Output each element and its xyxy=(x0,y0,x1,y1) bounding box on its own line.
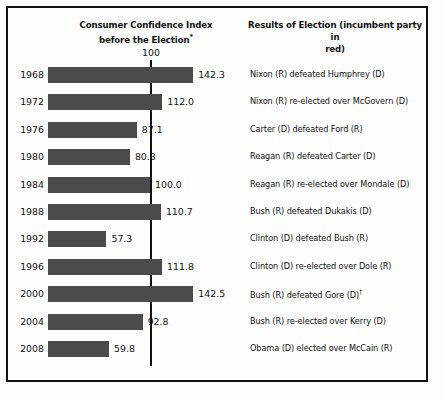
year-label: 1984 xyxy=(8,179,44,190)
election-result-text: Reagan (R) re-elected over Mondale (D) xyxy=(250,179,430,189)
value-bar xyxy=(48,94,162,110)
year-label: 1996 xyxy=(8,261,44,272)
chart-row: 1996111.8Clinton (D) re-elected over Dol… xyxy=(0,254,445,281)
bar-value-label: 100.0 xyxy=(155,179,182,190)
value-bar xyxy=(48,259,162,275)
value-bar xyxy=(48,67,193,83)
election-result-label: Reagan (R) re-elected over Mondale (D) xyxy=(250,179,409,189)
chart-rows: 1968142.3Nixon (R) defeated Humphrey (D)… xyxy=(0,0,445,399)
election-result-text: Reagan (R) defeated Carter (D) xyxy=(250,151,430,161)
value-bar xyxy=(48,204,161,220)
election-result-label: Bush (R) re-elected over Kerry (D) xyxy=(250,316,386,326)
value-bar xyxy=(48,149,130,165)
election-result-label: Reagan (R) defeated Carter (D) xyxy=(250,151,375,161)
year-label: 2008 xyxy=(8,343,44,354)
election-result-label: Clinton (D) defeated Bush (R) xyxy=(250,233,368,243)
chart-row: 200859.8Obama (D) elected over McCain (R… xyxy=(0,336,445,363)
value-bar xyxy=(48,314,143,330)
value-bar xyxy=(48,286,193,302)
election-result-text: Carter (D) defeated Ford (R) xyxy=(250,124,430,134)
election-result-label: Bush (R) defeated Dukakis (D) xyxy=(250,206,372,216)
chart-row: 1972112.0Nixon (R) re-elected over McGov… xyxy=(0,89,445,116)
election-result-text: Bush (R) defeated Dukakis (D) xyxy=(250,206,430,216)
chart-row: 1968142.3Nixon (R) defeated Humphrey (D) xyxy=(0,62,445,89)
chart-row: 2000142.5Bush (R) defeated Gore (D)† xyxy=(0,281,445,308)
year-label: 1988 xyxy=(8,206,44,217)
bar-value-label: 142.3 xyxy=(198,69,225,80)
value-bar xyxy=(48,341,109,357)
election-result-label: Clinton (D) re-elected over Dole (R) xyxy=(250,261,391,271)
footnote-dagger: † xyxy=(359,288,362,296)
chart-row: 198080.3Reagan (R) defeated Carter (D) xyxy=(0,144,445,171)
election-result-text: Nixon (R) defeated Humphrey (D) xyxy=(250,69,430,79)
election-result-text: Clinton (D) re-elected over Dole (R) xyxy=(250,261,430,271)
election-result-text: Bush (R) defeated Gore (D)† xyxy=(250,288,430,300)
election-result-text: Obama (D) elected over McCain (R) xyxy=(250,343,430,353)
year-label: 1992 xyxy=(8,233,44,244)
bar-value-label: 80.3 xyxy=(135,151,156,162)
election-result-label: Nixon (R) re-elected over McGovern (D) xyxy=(250,96,408,106)
bar-value-label: 142.5 xyxy=(198,288,225,299)
year-label: 1980 xyxy=(8,151,44,162)
bar-value-label: 92.8 xyxy=(148,316,169,327)
chart-row: 200492.8Bush (R) re-elected over Kerry (… xyxy=(0,309,445,336)
bar-value-label: 110.7 xyxy=(166,206,193,217)
election-result-label: Bush (R) defeated Gore (D) xyxy=(250,290,359,300)
chart-row: 197687.1Carter (D) defeated Ford (R) xyxy=(0,117,445,144)
chart-row: 199257.3Clinton (D) defeated Bush (R) xyxy=(0,226,445,253)
value-bar xyxy=(48,122,137,138)
bar-value-label: 87.1 xyxy=(142,124,163,135)
election-result-label: Obama (D) elected over McCain (R) xyxy=(250,343,392,353)
year-label: 1976 xyxy=(8,124,44,135)
election-result-text: Bush (R) re-elected over Kerry (D) xyxy=(250,316,430,326)
year-label: 1968 xyxy=(8,69,44,80)
bar-value-label: 112.0 xyxy=(167,96,194,107)
chart-figure: Consumer Confidence Index before the Ele… xyxy=(0,0,445,399)
chart-row: 1984100.0Reagan (R) re-elected over Mond… xyxy=(0,172,445,199)
election-result-text: Clinton (D) defeated Bush (R) xyxy=(250,233,430,243)
year-label: 2000 xyxy=(8,288,44,299)
election-result-text: Nixon (R) re-elected over McGovern (D) xyxy=(250,96,430,106)
chart-row: 1988110.7Bush (R) defeated Dukakis (D) xyxy=(0,199,445,226)
value-bar xyxy=(48,231,106,247)
bar-value-label: 57.3 xyxy=(111,233,132,244)
year-label: 2004 xyxy=(8,316,44,327)
value-bar xyxy=(48,177,150,193)
election-result-label: Nixon (R) defeated Humphrey (D) xyxy=(250,69,385,79)
bar-value-label: 111.8 xyxy=(167,261,194,272)
bar-value-label: 59.8 xyxy=(114,343,135,354)
election-result-label: Carter (D) defeated Ford (R) xyxy=(250,124,363,134)
year-label: 1972 xyxy=(8,96,44,107)
